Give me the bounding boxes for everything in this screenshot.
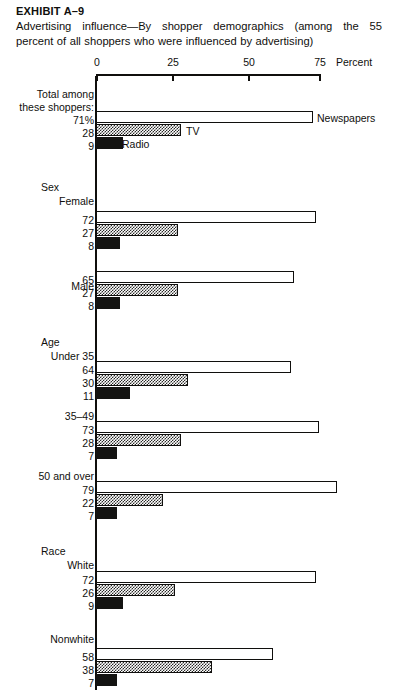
x-axis-label-0: 0: [94, 56, 100, 68]
series-callout-radio: Radio: [122, 138, 149, 150]
x-axis-label-25: 25: [167, 56, 179, 68]
bar-35-49-newspapers: [96, 421, 319, 433]
value-label-male-radio: 8: [88, 301, 94, 312]
value-label-35-49-newspapers: 73: [82, 425, 94, 436]
value-label-male-tv: 27: [82, 288, 94, 299]
category-label-35-49: 35–49: [65, 411, 94, 422]
bar-female-newspapers: [96, 211, 316, 223]
bar-chart: 0 25 50 75 Percent Total among these sho…: [0, 0, 402, 698]
category-label-under-35: Under 35: [51, 351, 94, 362]
value-label-female-newspapers: 72: [82, 215, 94, 226]
bar-under35-newspapers: [96, 361, 291, 373]
bar-35-49-radio: [96, 447, 117, 459]
value-label-total-radio: 9: [88, 141, 94, 152]
bar-under35-tv: [96, 374, 188, 386]
series-callout-newspapers: Newspapers: [317, 112, 375, 124]
bar-total-tv: [96, 124, 181, 136]
bar-50over-radio: [96, 507, 117, 519]
group-heading-age: Age: [41, 337, 60, 348]
value-label-male-newspapers: 65: [82, 275, 94, 286]
bar-white-newspapers: [96, 571, 316, 583]
value-label-under35-newspapers: 64: [82, 365, 94, 376]
bar-male-newspapers: [96, 271, 294, 283]
bar-white-tv: [96, 584, 175, 596]
bar-total-newspapers: [96, 111, 313, 123]
value-label-nonwhite-radio: 7: [88, 678, 94, 689]
category-label-nonwhite: Nonwhite: [50, 634, 94, 645]
value-label-under35-tv: 30: [82, 378, 94, 389]
value-label-total-tv: 28: [82, 128, 94, 139]
x-axis-unit-label: Percent: [336, 56, 372, 68]
x-axis-tick-50: [248, 74, 250, 81]
bar-female-radio: [96, 237, 120, 249]
group-heading-race: Race: [41, 546, 66, 557]
bar-35-49-tv: [96, 434, 181, 446]
category-label-female: Female: [59, 196, 94, 207]
value-label-35-49-tv: 28: [82, 438, 94, 449]
bar-50over-newspapers: [96, 481, 337, 493]
value-label-white-radio: 9: [88, 601, 94, 612]
value-label-50over-radio: 7: [88, 511, 94, 522]
value-label-under35-radio: 11: [83, 391, 94, 402]
bar-nonwhite-radio: [96, 674, 117, 686]
x-axis-label-50: 50: [243, 56, 255, 68]
value-label-35-49-radio: 7: [88, 451, 94, 462]
value-label-nonwhite-newspapers: 58: [82, 652, 94, 663]
value-label-total-newspapers: 71%: [73, 115, 94, 126]
value-label-female-radio: 8: [88, 241, 94, 252]
value-label-female-tv: 27: [82, 228, 94, 239]
value-label-nonwhite-tv: 38: [82, 665, 94, 676]
group-label-total: Total among these shoppers:: [19, 88, 94, 113]
bar-nonwhite-tv: [96, 661, 212, 673]
category-label-50-and-over: 50 and over: [39, 471, 94, 482]
series-callout-tv: TV: [186, 125, 199, 137]
bar-50over-tv: [96, 494, 163, 506]
bar-female-tv: [96, 224, 178, 236]
bar-male-tv: [96, 284, 178, 296]
value-label-50over-tv: 22: [82, 498, 94, 509]
value-label-white-tv: 26: [82, 588, 94, 599]
x-axis-tick-75: [319, 74, 321, 81]
value-label-50over-newspapers: 79: [82, 485, 94, 496]
bar-total-radio: [96, 137, 123, 149]
bar-nonwhite-newspapers: [96, 648, 273, 660]
bar-under35-radio: [96, 387, 130, 399]
x-axis-line: [96, 74, 320, 76]
x-axis-label-75: 75: [314, 56, 326, 68]
x-axis-tick-25: [172, 74, 174, 81]
group-heading-sex: Sex: [41, 182, 59, 193]
value-label-white-newspapers: 72: [82, 575, 94, 586]
group-label-total-line2: these shoppers:: [19, 101, 94, 114]
category-label-white: White: [67, 560, 94, 571]
group-label-total-line1: Total among: [19, 88, 94, 101]
bar-white-radio: [96, 597, 123, 609]
bar-male-radio: [96, 297, 120, 309]
